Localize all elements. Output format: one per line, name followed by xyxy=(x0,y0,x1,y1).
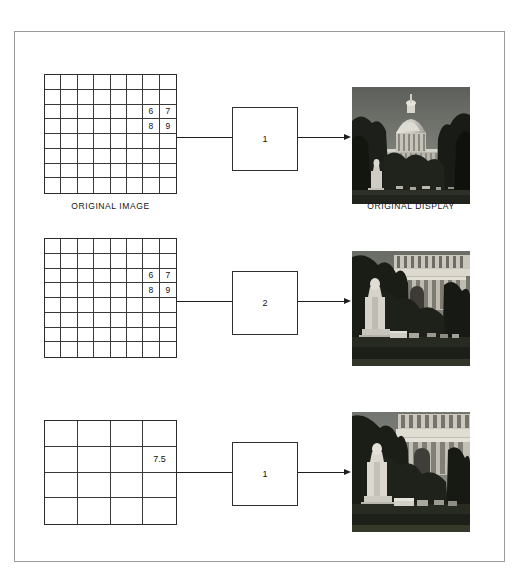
grid-cell-r7-c4 xyxy=(94,328,110,343)
grid-cell-r7-c1 xyxy=(45,164,61,179)
grid-cell-r7-c3 xyxy=(78,164,94,179)
caption-original-image: ORIGINAL IMAGE xyxy=(44,201,177,211)
grid-cell-r7-c2 xyxy=(61,164,77,179)
grid-cell-r5-c4 xyxy=(94,298,110,313)
grid-cell-r8-c6 xyxy=(127,178,143,193)
grid-cell-r8-c5 xyxy=(111,342,127,357)
connector-grid-to-box-1 xyxy=(177,137,232,138)
grid-cell-r1-c4 xyxy=(94,75,110,90)
grid-cell-r1-c2 xyxy=(61,75,77,90)
grid-cell-r5-c7 xyxy=(143,134,159,149)
grid-cell-r8-c6 xyxy=(127,342,143,357)
photo-capitol-original-display xyxy=(352,87,470,204)
connector-box-to-photo-3 xyxy=(298,472,345,473)
grid-cell-r2-c6 xyxy=(127,254,143,269)
figure-frame: 6789 ORIGINAL IMAGE 1 xyxy=(14,31,505,562)
grid-cell-r5-c3 xyxy=(78,298,94,313)
grid-cell-r8-c4 xyxy=(94,342,110,357)
grid-cell-r5-c6 xyxy=(127,298,143,313)
process-box-2-label: 2 xyxy=(262,298,267,308)
grid-cell-r3-c5 xyxy=(111,105,127,120)
grid-cell-r7-c5 xyxy=(111,164,127,179)
connector-box-to-photo-1 xyxy=(298,137,345,138)
grid-cell-r8-c5 xyxy=(111,178,127,193)
grid-cell-r4-c1 xyxy=(45,498,78,524)
grid-cell-r6-c3 xyxy=(78,149,94,164)
grid-cell-r8-c3 xyxy=(78,178,94,193)
grid-cell-r3-c2 xyxy=(61,269,77,284)
grid-cell-r4-c6 xyxy=(127,283,143,298)
connector-grid-to-box-2 xyxy=(177,301,232,302)
connector-box-to-photo-2 xyxy=(298,301,345,302)
grid-cell-r3-c2 xyxy=(78,473,111,499)
grid-cell-r2-c7 xyxy=(143,254,159,269)
grid-cell-r6-c1 xyxy=(45,313,61,328)
process-box-3: 1 xyxy=(232,442,298,506)
grid-cell-r3-c6 xyxy=(127,105,143,120)
grid-cell-r4-c4 xyxy=(94,119,110,134)
grid-cell-r6-c2 xyxy=(61,149,77,164)
grid-cell-r8-c1 xyxy=(45,178,61,193)
grid-cell-r7-c8 xyxy=(160,328,176,343)
caption-original-display: ORIGINAL DISPLAY xyxy=(352,201,470,211)
grid-cell-r1-c1 xyxy=(45,75,61,90)
grid-cell-r8-c2 xyxy=(61,178,77,193)
grid-cell-r5-c2 xyxy=(61,134,77,149)
grid-cell-r2-c3 xyxy=(111,447,144,473)
process-box-1-label: 1 xyxy=(262,134,267,144)
grid-cell-r6-c7 xyxy=(143,313,159,328)
grid-cell-r2-c4 xyxy=(94,90,110,105)
grid-cell-r6-c3 xyxy=(78,313,94,328)
grid-cell-r6-c8 xyxy=(160,149,176,164)
grid-cell-r6-c6 xyxy=(127,313,143,328)
grid-cell-r7-c7 xyxy=(143,328,159,343)
grid-cell-r7-c6 xyxy=(127,164,143,179)
grid-cell-r4-c1 xyxy=(45,119,61,134)
grid-cell-r1-c2 xyxy=(61,239,77,254)
grid-cell-r3-c1 xyxy=(45,473,78,499)
grid-cell-r5-c5 xyxy=(111,298,127,313)
grid-cell-r3-c4 xyxy=(94,105,110,120)
grid-cell-r2-c8 xyxy=(160,90,176,105)
grid-cell-r1-c7 xyxy=(143,239,159,254)
grid-cell-r1-c6 xyxy=(127,239,143,254)
process-box-1: 1 xyxy=(232,107,298,171)
grid-cell-r2-c3 xyxy=(78,254,94,269)
arrowhead-2 xyxy=(344,298,351,304)
grid-cell-r1-c5 xyxy=(111,239,127,254)
grid-cell-r4-c4 xyxy=(143,498,176,524)
grid-cell-r7-c7 xyxy=(143,164,159,179)
grid-cell-r4-c7: 8 xyxy=(143,119,159,134)
grid-cell-r2-c2 xyxy=(78,447,111,473)
grid-cell-r6-c8 xyxy=(160,313,176,328)
grid-cell-r4-c2 xyxy=(61,119,77,134)
arrowhead-3 xyxy=(344,469,351,475)
grid-cell-r8-c2 xyxy=(61,342,77,357)
grid-cell-r4-c1 xyxy=(45,283,61,298)
grid-cell-r2-c4: 7.5 xyxy=(143,447,176,473)
grid-cell-r1-c7 xyxy=(143,75,159,90)
grid-cell-r3-c3 xyxy=(78,269,94,284)
grid-cell-r3-c4 xyxy=(143,473,176,499)
grid-cell-r7-c6 xyxy=(127,328,143,343)
pixel-grid-zoom-source: 6789 xyxy=(44,238,177,358)
grid-cell-r4-c5 xyxy=(111,283,127,298)
grid-cell-r1-c8 xyxy=(160,239,176,254)
grid-cell-r1-c3 xyxy=(78,75,94,90)
grid-cell-r3-c4 xyxy=(94,269,110,284)
photo-capitol-zoom-interpolated xyxy=(352,412,470,532)
grid-cell-r7-c8 xyxy=(160,164,176,179)
grid-cell-r1-c1 xyxy=(45,239,61,254)
grid-cell-r1-c1 xyxy=(45,421,78,447)
grid-cell-r6-c6 xyxy=(127,149,143,164)
grid-cell-r6-c5 xyxy=(111,313,127,328)
grid-cell-r3-c7: 6 xyxy=(143,105,159,120)
grid-cell-r4-c7: 8 xyxy=(143,283,159,298)
grid-cell-r3-c3 xyxy=(111,473,144,499)
grid-cell-r8-c7 xyxy=(143,178,159,193)
grid-cell-r1-c3 xyxy=(78,239,94,254)
grid-cell-r4-c8: 9 xyxy=(160,283,176,298)
grid-cell-r7-c3 xyxy=(78,328,94,343)
grid-cell-r2-c4 xyxy=(94,254,110,269)
grid-cell-r8-c1 xyxy=(45,342,61,357)
